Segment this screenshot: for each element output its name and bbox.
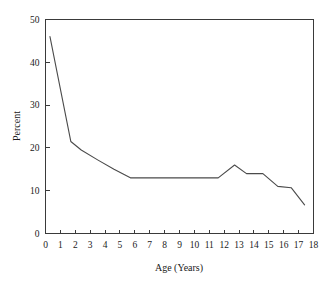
- x-tick-label: 7: [147, 240, 152, 250]
- tick-marks: [46, 20, 314, 234]
- data-line: [50, 37, 305, 205]
- x-tick-label: 15: [264, 240, 274, 250]
- x-tick-label: 8: [162, 240, 167, 250]
- x-tick-label: 6: [132, 240, 137, 250]
- x-tick-label: 11: [205, 240, 214, 250]
- plot-frame: [46, 20, 314, 234]
- y-tick-label: 0: [35, 229, 40, 239]
- x-tick-label: 4: [103, 240, 108, 250]
- data-series: [50, 37, 305, 205]
- x-tick-label: 14: [249, 240, 259, 250]
- y-tick-label: 30: [30, 100, 40, 110]
- x-tick-label: 9: [177, 240, 182, 250]
- x-tick-label: 0: [43, 240, 48, 250]
- x-tick-label: 18: [309, 240, 319, 250]
- y-tick-label: 40: [30, 58, 40, 68]
- x-axis-title: Age (Years): [155, 262, 203, 274]
- x-tick-label: 17: [294, 240, 304, 250]
- x-tick-label: 10: [190, 240, 200, 250]
- x-tick-labels: 0123456789101112131415161718: [43, 240, 318, 250]
- x-tick-label: 2: [73, 240, 78, 250]
- x-tick-label: 13: [234, 240, 244, 250]
- x-tick-label: 12: [219, 240, 229, 250]
- line-chart: 01020304050 0123456789101112131415161718…: [0, 0, 332, 281]
- x-tick-label: 5: [118, 240, 123, 250]
- y-tick-label: 50: [30, 15, 40, 25]
- y-tick-label: 20: [30, 143, 40, 153]
- y-tick-labels: 01020304050: [30, 15, 40, 239]
- y-axis-title: Percent: [11, 111, 22, 141]
- y-tick-label: 10: [30, 186, 40, 196]
- x-tick-label: 1: [58, 240, 63, 250]
- x-tick-label: 3: [88, 240, 93, 250]
- chart-canvas: 01020304050 0123456789101112131415161718…: [0, 0, 332, 281]
- x-tick-label: 16: [279, 240, 289, 250]
